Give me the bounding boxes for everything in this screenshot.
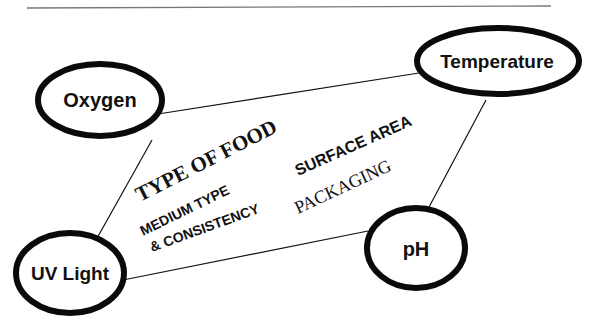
node-ph: pH xyxy=(367,208,465,288)
top-rule xyxy=(27,6,551,8)
node-ph-label: pH xyxy=(403,238,430,260)
node-oxygen: Oxygen xyxy=(38,64,162,136)
node-temperature-label: Temperature xyxy=(440,51,554,72)
edge-temperature-ph xyxy=(428,100,486,209)
diagram-svg: Oxygen Temperature UV Light pH TYPE OF F… xyxy=(0,0,589,333)
node-uv-light-label: UV Light xyxy=(31,263,110,284)
label-surface-area: SURFACE AREA xyxy=(292,112,414,179)
diagram-canvas: Oxygen Temperature UV Light pH TYPE OF F… xyxy=(0,0,589,333)
node-temperature: Temperature xyxy=(417,28,579,94)
edge-oxygen-temperature xyxy=(158,73,419,114)
node-oxygen-label: Oxygen xyxy=(63,89,136,111)
node-uv-light: UV Light xyxy=(16,233,124,313)
